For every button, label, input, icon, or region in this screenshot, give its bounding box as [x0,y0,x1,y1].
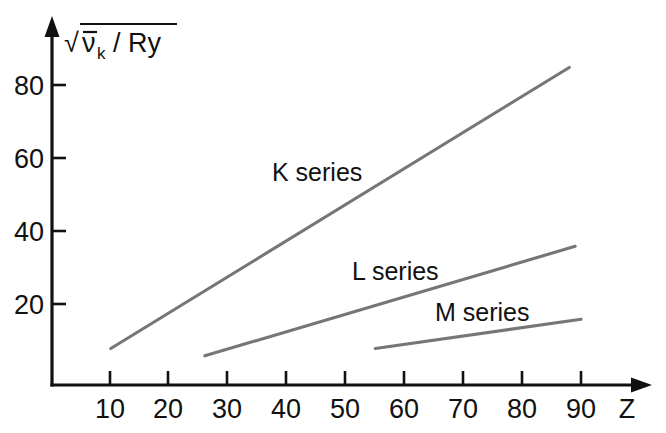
x-axis-arrowhead [631,378,652,393]
x-tick-label-30: 30 [212,394,242,424]
y-axis-arrowhead [45,16,60,37]
x-tick-label-90: 90 [566,394,596,424]
y-axis-label-subscript: k [97,44,106,63]
x-tick-label-50: 50 [330,394,360,424]
x-tick-label-80: 80 [507,394,537,424]
series-label-m: M series [435,298,529,326]
y-axis-label-divider: / Ry [113,28,162,58]
x-axis [52,378,652,393]
y-tick-label-20: 20 [14,290,44,320]
x-tick-label-70: 70 [448,394,478,424]
x-tick-marks [110,371,581,385]
y-axis-label-radical: √ [64,28,79,58]
y-tick-label-40: 40 [14,217,44,247]
y-tick-marks [52,85,66,304]
x-tick-label-40: 40 [271,394,301,424]
x-tick-label-20: 20 [153,394,183,424]
y-tick-label-60: 60 [14,144,44,174]
y-axis-label-symbol: ν [82,28,96,58]
y-axis-label: √ ν k / Ry [64,24,177,63]
x-tick-label-10: 10 [95,394,125,424]
chart-figure: 80 60 40 20 10 20 30 40 50 60 70 80 90 Z [0,0,666,433]
y-tick-label-80: 80 [14,71,44,101]
x-axis-label: Z [619,394,636,424]
series-label-k: K series [272,158,362,186]
series-label-l: L series [352,257,439,285]
x-tick-label-60: 60 [389,394,419,424]
chart-plot-area: 80 60 40 20 10 20 30 40 50 60 70 80 90 Z [0,0,666,433]
y-axis [45,16,60,385]
